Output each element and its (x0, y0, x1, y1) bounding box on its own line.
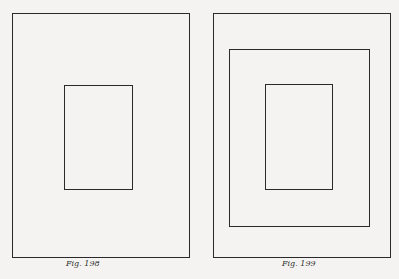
fig199-inner-rect (265, 84, 333, 190)
fig198-caption: Fig. 198 (66, 259, 100, 268)
fig198-inner-rect (64, 85, 133, 190)
fig199-caption: Fig. 199 (282, 259, 316, 268)
